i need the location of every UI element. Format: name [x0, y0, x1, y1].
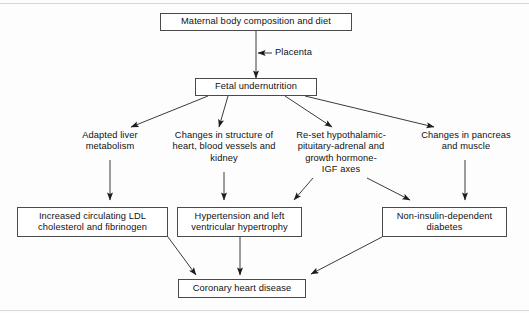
- node-fetal-undernutrition: Fetal undernutrition: [195, 78, 317, 96]
- flowchart-figure: Maternal body composition and diet Place…: [0, 0, 529, 313]
- edge-diabetes-to-coronary: [311, 237, 382, 274]
- label-changes-in-pancreas: Changes in pancreas and muscle: [411, 130, 521, 153]
- edge-fetal-to-structure: [219, 96, 228, 127]
- edge-fetal-to-liver: [131, 96, 208, 127]
- node-hypertension-lvh: Hypertension and left ventricular hypert…: [177, 207, 302, 237]
- label-reset-hpa-axes: Re-set hypothalamic- pituitary-adrenal a…: [286, 130, 396, 175]
- edge-axes-to-hypertension: [294, 178, 313, 200]
- node-maternal-body-composition: Maternal body composition and diet: [160, 13, 352, 31]
- node-coronary-heart-disease: Coronary heart disease: [178, 279, 306, 298]
- label-adapted-liver-metabolism: Adapted liver metabolism: [62, 130, 158, 153]
- node-non-insulin-dependent-diabetes: Non-insulin-dependent diabetes: [382, 207, 507, 237]
- node-increased-ldl-cholesterol: Increased circulating LDL cholesterol an…: [17, 207, 168, 237]
- label-changes-in-structure: Changes in structure of heart, blood ves…: [161, 130, 287, 164]
- edge-ldl-to-coronary: [168, 237, 196, 275]
- edge-axes-to-diabetes: [367, 178, 410, 200]
- label-placenta: Placenta: [275, 47, 345, 58]
